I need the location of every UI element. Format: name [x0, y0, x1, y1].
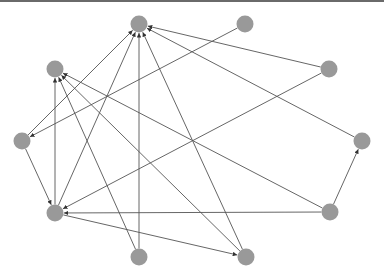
node-B[interactable] [237, 16, 254, 33]
node-J[interactable] [238, 249, 255, 266]
edge-H-to-F [333, 149, 358, 204]
edge-I-to-C [59, 77, 136, 249]
graph-canvas [0, 0, 384, 280]
edge-layer [26, 26, 359, 255]
edge-G-to-J [63, 215, 237, 255]
node-H[interactable] [322, 204, 339, 221]
node-A[interactable] [131, 16, 148, 33]
edge-E-to-G [26, 149, 52, 205]
node-E[interactable] [14, 133, 31, 150]
edge-G-to-A [58, 32, 135, 205]
edge-D-to-A [148, 26, 321, 67]
edge-H-to-G [64, 212, 322, 213]
node-F[interactable] [354, 133, 371, 150]
edge-F-to-A [147, 28, 355, 137]
node-I[interactable] [131, 249, 148, 266]
node-G[interactable] [47, 205, 64, 222]
edge-E-to-A [28, 30, 133, 135]
node-D[interactable] [321, 61, 338, 78]
node-C[interactable] [47, 61, 64, 78]
